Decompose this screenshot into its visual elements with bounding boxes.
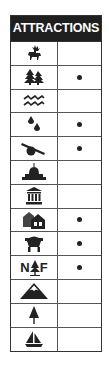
nf-letter-n: N	[20, 260, 29, 275]
availability-cell	[58, 161, 101, 184]
availability-cell	[58, 66, 101, 89]
capitol-dome-icon	[11, 161, 58, 184]
availability-cell	[58, 137, 101, 160]
table-row	[11, 328, 101, 352]
available-dot	[77, 146, 82, 151]
table-row	[11, 42, 101, 66]
nf-letter-f: F	[40, 260, 48, 275]
sailboat-icon	[11, 328, 58, 352]
museum-building-icon	[11, 185, 58, 208]
availability-cell	[58, 90, 101, 113]
table-row	[11, 66, 101, 90]
attractions-table: ATTRACTIONS	[10, 15, 102, 352]
availability-cell	[58, 280, 101, 303]
availability-cell	[58, 185, 101, 208]
table-row	[11, 185, 101, 209]
mountain-icon	[11, 280, 58, 303]
availability-cell	[58, 42, 101, 65]
table-row	[11, 113, 101, 137]
table-header: ATTRACTIONS	[11, 16, 101, 42]
table-row	[11, 304, 101, 328]
water-waves-icon	[11, 90, 58, 113]
mine-cart-icon	[11, 232, 58, 255]
table-row	[11, 232, 101, 256]
table-row	[11, 161, 101, 185]
available-dot	[77, 75, 82, 80]
table-row: NF	[11, 256, 101, 280]
water-drops-icon	[11, 113, 58, 136]
wildlife-elk-icon	[11, 42, 58, 65]
houses-village-icon	[11, 209, 58, 232]
availability-cell	[58, 232, 101, 255]
available-dot	[77, 265, 82, 270]
table-row	[11, 209, 101, 233]
availability-cell	[58, 304, 101, 327]
forest-trees-icon	[11, 66, 58, 89]
availability-cell	[58, 113, 101, 136]
availability-cell	[58, 328, 101, 352]
table-row	[11, 137, 101, 161]
table-row	[11, 280, 101, 304]
available-dot	[77, 217, 82, 222]
table-row	[11, 90, 101, 114]
availability-cell	[58, 256, 101, 279]
national-forest-icon: NF	[11, 256, 58, 279]
available-dot	[77, 122, 82, 127]
pine-tree-icon	[11, 304, 58, 327]
available-dot	[77, 241, 82, 246]
availability-cell	[58, 209, 101, 232]
cannon-historic-icon	[11, 137, 58, 160]
